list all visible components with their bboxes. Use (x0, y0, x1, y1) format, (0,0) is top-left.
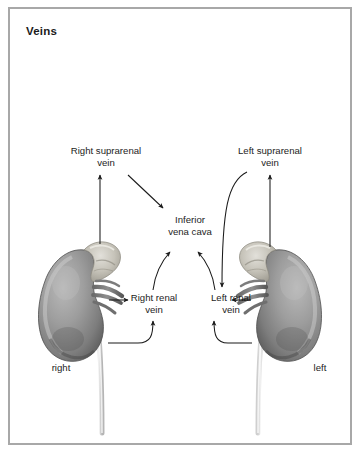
left-kidney-illustration (238, 242, 322, 433)
arrow-right-renal-to-ivc (153, 252, 170, 290)
label-side-left: left (294, 362, 346, 373)
label-inferior-vena-cava: Inferior vena cava (150, 214, 230, 238)
right-kidney-illustration (38, 242, 122, 433)
leader-left-ureter-to-left-renal (214, 321, 252, 343)
leader-right-ureter-to-right-renal (108, 321, 153, 343)
figure-panel: Veins (8, 7, 352, 445)
label-right-renal-vein: Right renal vein (118, 292, 190, 316)
label-side-right: right (32, 362, 90, 373)
arrow-left-renal-to-ivc (198, 252, 215, 290)
label-left-suprarenal-vein: Left suprarenal vein (222, 145, 318, 169)
label-left-renal-vein: Left renal vein (198, 292, 264, 316)
arrow-right-suprarenal-to-ivc (128, 175, 163, 208)
label-right-suprarenal-vein: Right suprarenal vein (58, 145, 154, 169)
